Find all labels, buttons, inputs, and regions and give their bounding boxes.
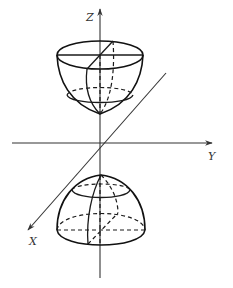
lower-cap-ellipse-front [72, 190, 130, 198]
lower-front-meridian [88, 175, 101, 244]
lower-dome-profile [57, 175, 145, 230]
x-axis-label: X [28, 235, 38, 248]
lower-dome [57, 175, 145, 245]
hyperboloid-diagram: Z Y X [0, 0, 233, 288]
z-axis-label: Z [85, 11, 94, 24]
lower-base-ellipse-front [57, 230, 145, 245]
lower-cap-ellipse-back [72, 184, 130, 190]
lower-back-meridian [101, 175, 118, 213]
axes [12, 9, 212, 278]
lower-base-x-diameter [88, 213, 118, 244]
x-axis [28, 73, 166, 230]
y-axis-label: Y [208, 150, 217, 163]
upper-front-meridian [86, 69, 100, 114]
lower-base-ellipse-back [57, 214, 145, 231]
